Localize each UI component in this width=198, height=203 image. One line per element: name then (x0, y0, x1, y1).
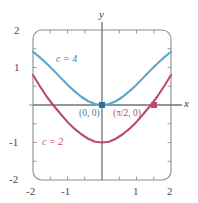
ytick-label-neg2: -2 (9, 173, 18, 185)
plot-canvas (0, 0, 198, 203)
xtick-label-neg2: -2 (26, 185, 35, 197)
ytick-label-neg1: -1 (9, 136, 18, 148)
curve-label-c2: c = 2 (42, 136, 63, 147)
point-label-origin: (0, 0) (79, 108, 100, 118)
xtick-label-neg1: -1 (61, 185, 70, 197)
ytick-label-1: 1 (14, 61, 20, 73)
x-axis-label: x (184, 97, 189, 109)
chart-figure: 2 1 -1 -2 -2 -1 1 2 y x c = 4 c = 2 (0, … (0, 0, 198, 203)
xtick-label-1: 1 (133, 185, 139, 197)
point-label-pi-half: (π/2, 0) (113, 108, 141, 118)
y-axis-label: y (99, 8, 104, 20)
ytick-label-2: 2 (14, 24, 20, 36)
xtick-label-2: 2 (167, 185, 173, 197)
marker-pi-half (151, 102, 157, 108)
curve-label-c4: c = 4 (56, 53, 77, 64)
